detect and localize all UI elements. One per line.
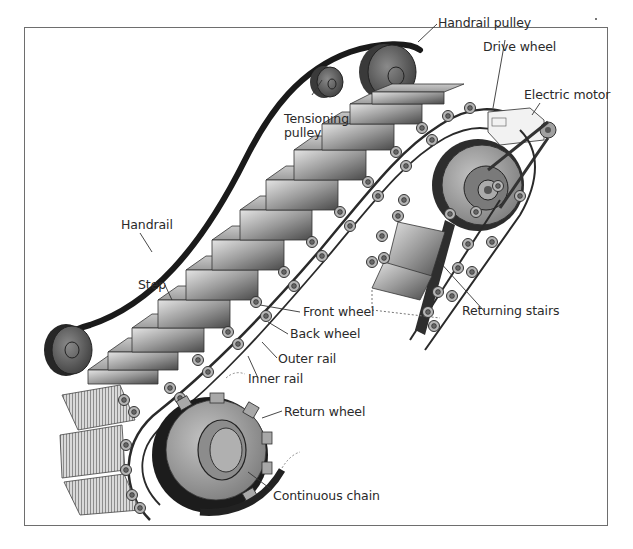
label-tensioning-pulley-line1: Tensioning xyxy=(284,112,349,126)
label-step: Step xyxy=(138,278,166,292)
tensioning-pulley xyxy=(310,66,343,98)
lower-handrail-pulley xyxy=(44,324,92,376)
label-outer-rail: Outer rail xyxy=(278,352,336,366)
label-back-wheel: Back wheel xyxy=(290,327,360,341)
label-return-wheel: Return wheel xyxy=(284,405,365,419)
label-drive-wheel: Drive wheel xyxy=(483,40,556,54)
return-wheel xyxy=(152,393,272,513)
lower-step-assembly xyxy=(60,385,146,515)
label-electric-motor: Electric motor xyxy=(524,88,610,102)
label-tensioning-pulley-line2: pulley xyxy=(284,126,321,140)
label-front-wheel: Front wheel xyxy=(303,305,375,319)
label-returning-stairs: Returning stairs xyxy=(462,304,559,318)
label-continuous-chain: Continuous chain xyxy=(273,489,380,503)
label-handrail-pulley: Handrail pulley xyxy=(438,16,531,30)
escalator-illustration xyxy=(0,0,633,549)
label-handrail: Handrail xyxy=(121,218,173,232)
label-inner-rail: Inner rail xyxy=(248,372,303,386)
